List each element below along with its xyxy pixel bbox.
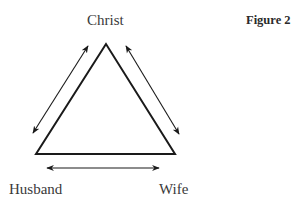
node-label-husband: Husband (9, 182, 62, 197)
christ-husband-wife-diagram: Christ Husband Wife Figure 2 (0, 0, 305, 211)
triangle (36, 44, 175, 154)
figure-title: Figure 2 (246, 14, 291, 27)
node-label-christ: Christ (87, 13, 124, 28)
arrow-christ-husband (33, 46, 88, 133)
diagram-graphics (0, 0, 305, 211)
node-label-wife: Wife (159, 182, 188, 197)
